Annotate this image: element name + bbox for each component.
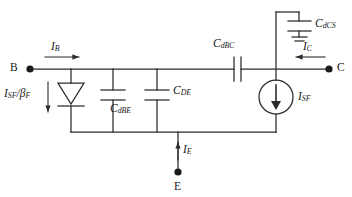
terminal-label-c: C bbox=[337, 62, 345, 74]
capacitor-label-cdcs-symbol: C bbox=[315, 17, 323, 29]
circuit-diagram: B C E IB IC IE ISF/βF CdBE CDE CdBC CdCS… bbox=[0, 0, 352, 197]
capacitor-label-cdbe: CdBE bbox=[110, 103, 131, 115]
current-label-ie: IE bbox=[183, 144, 192, 156]
terminal-dot-collector bbox=[325, 65, 332, 72]
current-label-ic: IC bbox=[303, 41, 312, 53]
terminal-dot-base bbox=[26, 65, 33, 72]
current-source-label-isf-subscript: SF bbox=[302, 94, 311, 103]
terminal-dot-emitter bbox=[174, 168, 181, 175]
current-source-label-isf: ISF bbox=[298, 91, 311, 103]
capacitor-label-cdbe-subscript: dBE bbox=[118, 106, 131, 115]
terminal-label-b: B bbox=[10, 62, 18, 74]
capacitor-label-cdcs: CdCS bbox=[315, 18, 336, 30]
diode-label-isf-over-betaf: ISF/βF bbox=[4, 88, 30, 100]
diode-triangle bbox=[58, 83, 84, 104]
capacitor-label-cdcs-subscript: dCS bbox=[323, 21, 336, 30]
capacitor-label-cdbc: CdBC bbox=[213, 38, 235, 50]
capacitor-label-cde: CDE bbox=[173, 85, 191, 97]
capacitor-label-cde-subscript: DE bbox=[181, 88, 191, 97]
current-label-ie-subscript: E bbox=[187, 147, 192, 156]
terminal-label-e: E bbox=[174, 181, 181, 193]
capacitor-label-cde-symbol: C bbox=[173, 84, 181, 96]
diode-label-denominator-subscript: F bbox=[25, 91, 30, 100]
current-label-ic-subscript: C bbox=[307, 44, 312, 53]
capacitor-label-cdbe-symbol: C bbox=[110, 102, 118, 114]
current-source-arrow-head bbox=[271, 101, 281, 110]
capacitor-label-cdbc-subscript: dBC bbox=[221, 41, 235, 50]
diode-label-numerator-subscript: SF bbox=[8, 91, 17, 100]
current-label-ib-subscript: B bbox=[55, 44, 60, 53]
capacitor-label-cdbc-symbol: C bbox=[213, 37, 221, 49]
current-label-ib: IB bbox=[51, 41, 60, 53]
